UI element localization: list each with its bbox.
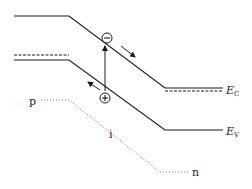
electron-drift-arrow bbox=[121, 46, 135, 57]
i-region-label: i bbox=[109, 128, 113, 141]
hole-icon bbox=[100, 93, 110, 103]
valence-band-line bbox=[14, 60, 223, 130]
ec-label: EC bbox=[225, 84, 239, 98]
doping-profile-line bbox=[41, 100, 188, 172]
ev-label: EV bbox=[225, 125, 240, 139]
hole-drift-arrow bbox=[88, 82, 100, 90]
p-region-label: p bbox=[29, 95, 36, 108]
n-region-label: n bbox=[192, 166, 199, 179]
conduction-band-line bbox=[14, 16, 223, 88]
electron-icon bbox=[102, 33, 112, 43]
band-diagram: EC EV p i n bbox=[0, 0, 252, 189]
